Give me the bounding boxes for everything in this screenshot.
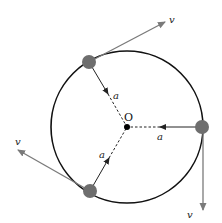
acceleration-label-bottom-left: a	[99, 149, 105, 160]
velocity-label-bottom-left: v	[15, 136, 21, 147]
acceleration-vector-top-left	[89, 62, 127, 127]
acceleration-label-right: a	[157, 131, 163, 142]
circular-motion-diagram: O v v v a a a	[0, 0, 222, 223]
particle-right	[195, 120, 209, 134]
particle-top-left	[82, 55, 96, 69]
acceleration-vector-bottom-left	[90, 127, 127, 191]
particle-bottom-left	[83, 184, 97, 198]
center-point	[124, 124, 130, 130]
center-label: O	[124, 111, 133, 124]
velocity-vector-bottom-left	[18, 150, 90, 191]
velocity-label-top-left: v	[169, 14, 175, 25]
acceleration-label-top-left: a	[113, 90, 119, 101]
velocity-label-right: v	[187, 209, 193, 220]
